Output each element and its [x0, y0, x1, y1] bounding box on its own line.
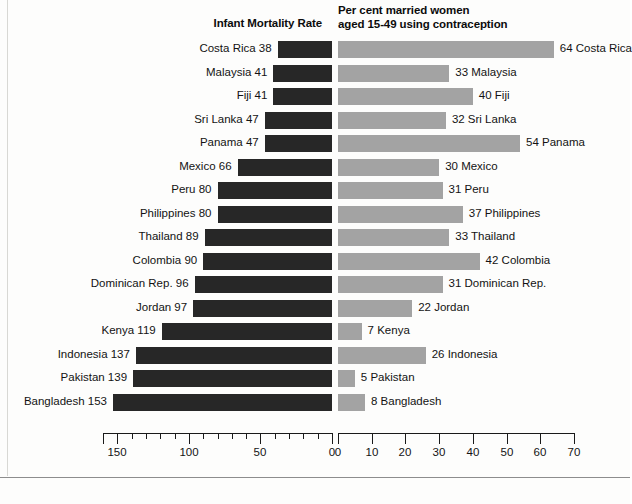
left-axis-tick-major	[117, 433, 118, 444]
chart-row: Sri Lanka 4732 Sri Lanka	[0, 111, 630, 135]
right-axis-tick	[439, 433, 440, 444]
bar-contraception	[338, 41, 554, 58]
row-label-left: Bangladesh 153	[24, 393, 107, 410]
left-axis-tick-label: 150	[97, 446, 137, 459]
row-label-right: 31 Peru	[449, 181, 489, 198]
bar-infant-mortality	[218, 182, 333, 199]
chart-row: Jordan 9722 Jordan	[0, 299, 630, 323]
right-panel-title: Per cent married womenaged 15-49 using c…	[338, 4, 588, 31]
row-label-left: Costa Rica 38	[199, 40, 271, 57]
row-label-right: 42 Colombia	[486, 252, 551, 269]
bar-contraception	[338, 88, 473, 105]
left-panel-title: Infant Mortality Rate	[170, 17, 322, 31]
row-label-left: Pakistan 139	[61, 369, 128, 386]
left-axis-line	[103, 433, 333, 434]
row-label-right: 31 Dominican Rep.	[449, 275, 547, 292]
bar-contraception	[338, 112, 446, 129]
left-axis-tick-minor	[275, 433, 276, 439]
right-axis-tick	[405, 433, 406, 444]
row-label-left: Malaysia 41	[206, 64, 267, 81]
chart-rows: Costa Rica 3864 Costa RicaMalaysia 4133 …	[0, 40, 630, 416]
bar-infant-mortality	[203, 253, 332, 270]
left-axis-tick-minor	[303, 433, 304, 439]
row-label-left: Mexico 66	[179, 158, 231, 175]
row-label-left: Sri Lanka 47	[194, 111, 259, 128]
row-label-left: Panama 47	[200, 134, 259, 151]
bar-infant-mortality	[162, 323, 332, 340]
row-label-right: 64 Costa Rica	[560, 40, 632, 57]
row-label-left: Philippines 80	[140, 205, 212, 222]
row-label-right: 33 Thailand	[455, 228, 515, 245]
chart-row: Kenya 1197 Kenya	[0, 322, 630, 346]
page-frame-bottom-rule	[0, 477, 630, 478]
chart-row: Malaysia 4133 Malaysia	[0, 64, 630, 88]
chart-row: Panama 4754 Panama	[0, 134, 630, 158]
bar-infant-mortality	[265, 135, 332, 152]
right-axis-tick-label: 50	[487, 446, 527, 459]
bar-infant-mortality	[133, 370, 332, 387]
chart-row: Thailand 8933 Thailand	[0, 228, 630, 252]
right-axis-tick-label: 10	[352, 446, 392, 459]
left-axis-tick-label: 50	[240, 446, 280, 459]
row-label-right: 40 Fiji	[479, 87, 510, 104]
row-label-left: Peru 80	[171, 181, 211, 198]
right-axis-tick	[473, 433, 474, 444]
left-axis-tick-major	[332, 433, 333, 444]
bar-contraception	[338, 206, 463, 223]
bar-infant-mortality	[265, 112, 332, 129]
bar-infant-mortality	[136, 347, 332, 364]
row-label-left: Colombia 90	[133, 252, 198, 269]
bar-contraception	[338, 300, 412, 317]
right-axis-tick-label: 60	[520, 446, 560, 459]
right-axis-tick	[372, 433, 373, 444]
row-label-right: 22 Jordan	[418, 299, 469, 316]
right-axis-tick	[574, 433, 575, 444]
right-axis-tick-label: 20	[385, 446, 425, 459]
left-axis-tick-minor	[232, 433, 233, 439]
chart-row: Bangladesh 1538 Bangladesh	[0, 393, 630, 417]
row-label-left: Fiji 41	[237, 87, 268, 104]
left-axis-tick-minor	[289, 433, 290, 439]
bar-infant-mortality	[238, 159, 332, 176]
bar-infant-mortality	[205, 229, 332, 246]
row-label-right: 33 Malaysia	[455, 64, 516, 81]
bar-contraception	[338, 135, 520, 152]
left-axis-tick-major	[189, 433, 190, 444]
bar-infant-mortality	[193, 300, 332, 317]
left-axis-tick-minor	[203, 433, 204, 439]
bar-infant-mortality	[273, 88, 332, 105]
chart-row: Indonesia 13726 Indonesia	[0, 346, 630, 370]
chart-row: Fiji 4140 Fiji	[0, 87, 630, 111]
bar-infant-mortality	[218, 206, 333, 223]
right-axis-tick-label: 30	[419, 446, 459, 459]
left-axis-tick-minor	[146, 433, 147, 439]
bar-infant-mortality	[273, 65, 332, 82]
bar-contraception	[338, 276, 443, 293]
left-axis-tick-label: 100	[169, 446, 209, 459]
row-label-right: 5 Pakistan	[361, 369, 415, 386]
bar-contraception	[338, 394, 365, 411]
right-axis-tick	[338, 433, 339, 444]
bar-contraception	[338, 229, 449, 246]
row-label-left: Indonesia 137	[58, 346, 130, 363]
left-axis-tick-major	[260, 433, 261, 444]
row-label-right: 37 Philippines	[469, 205, 541, 222]
right-axis-line	[338, 433, 575, 434]
left-axis-tick-minor	[175, 433, 176, 439]
left-axis-tick-minor	[318, 433, 319, 439]
left-axis-tick-minor	[246, 433, 247, 439]
left-axis-tick-minor	[218, 433, 219, 439]
chart-row: Philippines 8037 Philippines	[0, 205, 630, 229]
left-axis-tick-minor	[103, 433, 104, 444]
bar-contraception	[338, 323, 362, 340]
chart-row: Mexico 6630 Mexico	[0, 158, 630, 182]
right-axis-tick-label: 0	[318, 446, 358, 459]
chart-row: Colombia 9042 Colombia	[0, 252, 630, 276]
left-axis-tick-label: 0	[312, 446, 352, 459]
row-label-right: 8 Bangladesh	[371, 393, 441, 410]
row-label-left: Jordan 97	[136, 299, 187, 316]
bar-contraception	[338, 347, 426, 364]
row-label-right: 54 Panama	[526, 134, 585, 151]
right-axis-tick	[507, 433, 508, 444]
